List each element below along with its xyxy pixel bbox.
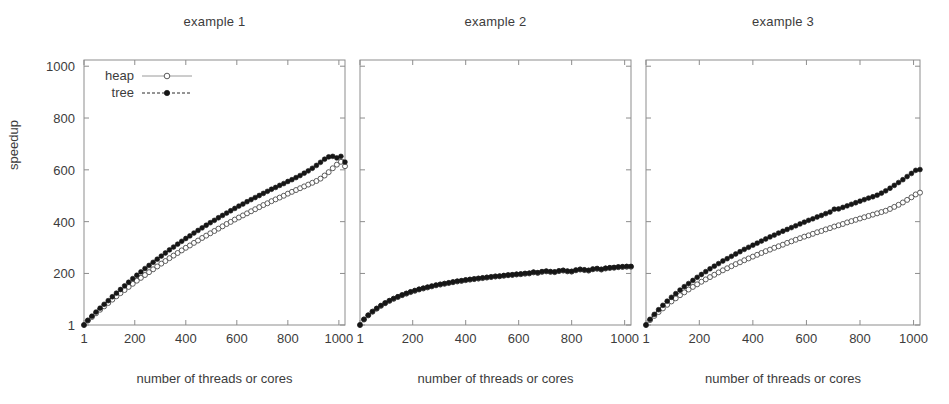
data-point-tree (110, 294, 115, 299)
data-point-tree (682, 284, 687, 289)
x-tick-label: 200 (688, 331, 710, 346)
data-point-heap (918, 190, 923, 195)
plot-frame (360, 60, 631, 325)
data-point-tree (366, 313, 371, 318)
panel-axes-1: 1200400600800100012004006008001000 (46, 59, 353, 346)
y-tick-label: 200 (53, 266, 75, 281)
data-point-tree (669, 295, 674, 300)
x-tick-label: 600 (508, 331, 530, 346)
x-tick-label: 600 (226, 331, 248, 346)
legend-label-tree: tree (112, 85, 134, 100)
x-tick-label: 1 (356, 331, 363, 346)
data-point-tree (114, 291, 119, 296)
data-point-tree (126, 280, 131, 285)
series-line-tree (84, 156, 345, 325)
panel-axes-3: 12004006008001000 (642, 60, 928, 346)
x-tick-label: 400 (455, 331, 477, 346)
x-tick-label: 1000 (610, 331, 639, 346)
data-point-tree (648, 317, 653, 322)
x-tick-label: 400 (742, 331, 764, 346)
data-point-tree (716, 261, 721, 266)
data-point-tree (883, 188, 888, 193)
data-point-tree (686, 281, 691, 286)
data-point-tree (652, 312, 657, 317)
data-point-tree (98, 306, 103, 311)
data-point-heap (326, 170, 331, 175)
data-point-tree (656, 307, 661, 312)
x-tick-label: 600 (796, 331, 818, 346)
legend-marker-heap (164, 73, 170, 79)
x-tick-label: 1 (80, 331, 87, 346)
data-point-tree (660, 303, 665, 308)
data-point-tree (106, 298, 111, 303)
legend: heaptree (105, 68, 192, 100)
data-point-tree (82, 323, 87, 328)
data-point-tree (118, 287, 123, 292)
data-point-tree (374, 306, 379, 311)
data-point-tree (370, 309, 375, 314)
data-point-tree (905, 174, 910, 179)
data-point-tree (892, 183, 897, 188)
y-tick-label: 800 (53, 111, 75, 126)
data-point-tree (339, 154, 344, 159)
data-point-tree (918, 167, 923, 172)
data-point-tree (362, 317, 367, 322)
x-tick-label: 200 (124, 331, 146, 346)
data-point-tree (159, 254, 164, 259)
panel-axes-2: 12004006008001000 (356, 60, 639, 346)
x-tick-label: 800 (561, 331, 583, 346)
data-point-tree (343, 160, 348, 165)
data-point-tree (147, 263, 152, 268)
x-tick-label: 1 (642, 331, 649, 346)
y-tick-label: 600 (53, 163, 75, 178)
data-point-tree (379, 303, 384, 308)
data-point-tree (665, 299, 670, 304)
data-point-tree (913, 168, 918, 173)
data-point-tree (143, 266, 148, 271)
data-point-tree (134, 273, 139, 278)
data-point-tree (163, 251, 168, 256)
y-tick-label: 1000 (46, 59, 75, 74)
data-point-tree (695, 275, 700, 280)
data-point-tree (102, 302, 107, 307)
data-point-tree (900, 177, 905, 182)
y-tick-label: 400 (53, 215, 75, 230)
data-point-tree (130, 276, 135, 281)
data-point-tree (896, 180, 901, 185)
data-point-tree (712, 264, 717, 269)
plot-area: 1200400600800100012004006008001000120040… (0, 0, 949, 404)
data-point-tree (318, 160, 323, 165)
data-point-tree (358, 323, 363, 328)
legend-label-heap: heap (105, 68, 134, 83)
x-tick-label: 800 (277, 331, 299, 346)
legend-marker-tree (164, 90, 169, 95)
data-point-tree (828, 210, 833, 215)
data-point-tree (909, 171, 914, 176)
data-point-tree (678, 288, 683, 293)
data-point-tree (155, 257, 160, 262)
data-point-tree (708, 266, 713, 271)
data-point-tree (314, 163, 319, 168)
data-point-tree (644, 323, 649, 328)
x-tick-label: 1000 (899, 331, 928, 346)
data-point-heap (330, 166, 335, 171)
data-point-tree (85, 318, 90, 323)
data-point-tree (673, 291, 678, 296)
x-tick-label: 200 (402, 331, 424, 346)
data-point-tree (888, 186, 893, 191)
x-tick-label: 400 (175, 331, 197, 346)
data-point-tree (690, 278, 695, 283)
y-tick-label: 1 (68, 318, 75, 333)
x-tick-label: 1000 (324, 331, 353, 346)
data-point-tree (699, 272, 704, 277)
data-point-tree (90, 314, 95, 319)
figure-container: speedup example 1 number of threads or c… (0, 0, 949, 404)
data-point-tree (629, 264, 634, 269)
data-point-tree (122, 283, 127, 288)
x-tick-label: 800 (849, 331, 871, 346)
data-point-tree (703, 269, 708, 274)
data-point-tree (151, 260, 156, 265)
data-point-tree (94, 310, 99, 315)
data-point-tree (138, 270, 143, 275)
